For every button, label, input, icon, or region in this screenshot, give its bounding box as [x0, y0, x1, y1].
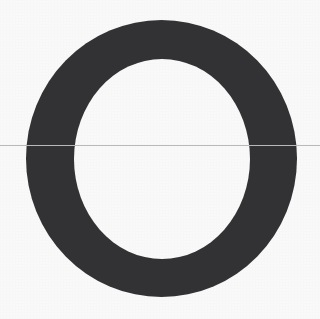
glyph-o-ring — [26, 20, 297, 297]
glyph-specimen-canvas — [0, 0, 320, 319]
glyph-artwork — [0, 0, 320, 319]
